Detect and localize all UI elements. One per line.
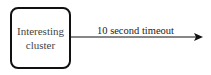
node-label: Interesting cluster	[12, 24, 69, 52]
interesting-cluster-node: Interesting cluster	[10, 7, 71, 69]
edge-label: 10 second timeout	[97, 25, 177, 36]
